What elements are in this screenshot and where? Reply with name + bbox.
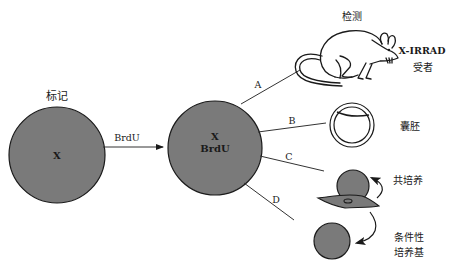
blastocyst-icon (330, 103, 374, 147)
branch-c-label: C (285, 151, 292, 162)
curved-arrow-up-icon (372, 178, 382, 198)
mouse-title: 检测 (342, 10, 362, 22)
mouse-recipient: 检测 X-IRRAD 受者 (295, 10, 445, 86)
diagram-canvas: 标记 X BrdU X BrdU A B C D 检测 (0, 0, 452, 274)
mouse-icon (295, 31, 398, 86)
conditioned-label-line1: 条件性 (394, 231, 424, 243)
branch-a: A (241, 70, 300, 104)
labeled-cell-line1: X (211, 131, 219, 142)
branch-b-label: B (289, 115, 296, 126)
branch-a-line (241, 70, 300, 104)
source-cell-title: 标记 (46, 89, 68, 103)
labeled-cell-line2: BrdU (200, 143, 230, 154)
branch-d: D (244, 183, 294, 220)
mouse-label-line2: 受者 (413, 62, 433, 73)
conditioned-cell-icon (314, 223, 350, 259)
blastocyst: 囊胚 (330, 103, 420, 147)
fibroblast-icon (318, 195, 379, 208)
mouse-label-line1: X-IRRAD (399, 45, 446, 56)
branch-a-label: A (254, 79, 262, 90)
curved-arrow-down-icon (357, 212, 376, 243)
branch-b: B (258, 115, 326, 132)
brdu-arrow-label: BrdU (114, 132, 140, 143)
branch-d-label: D (272, 194, 280, 205)
conditioned-medium: 条件性 培养基 (314, 223, 424, 259)
branch-c: C (260, 151, 324, 171)
brdu-arrow: BrdU (103, 132, 163, 147)
branch-d-line (244, 183, 294, 220)
source-cell-label: X (53, 150, 61, 161)
source-cell: 标记 X (9, 89, 105, 203)
conditioned-label-line2: 培养基 (394, 246, 424, 258)
labeled-cell: X BrdU (168, 101, 262, 195)
coculture-label: 共培养 (393, 174, 423, 186)
blastocyst-label: 囊胚 (400, 120, 420, 132)
